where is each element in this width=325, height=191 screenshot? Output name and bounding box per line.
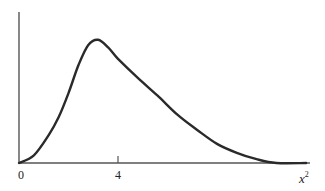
x-tick-label-0: 0 [18, 169, 24, 181]
x-axis-title: x2 [299, 168, 309, 185]
x-axis-title-superscript: 2 [305, 170, 309, 179]
density-curve [19, 40, 306, 164]
chi-square-plot [0, 0, 325, 191]
x-tick-label-4: 4 [115, 169, 121, 181]
